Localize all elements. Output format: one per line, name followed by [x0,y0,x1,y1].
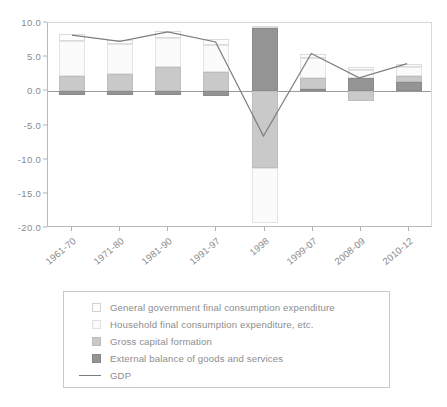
y-axis-tick-label: -10.0 [0,153,41,164]
legend-swatch-household [92,320,101,329]
y-axis-tick-mark [43,90,47,91]
x-axis-tick-label: 1991-97 [182,235,223,272]
y-axis-tick-label: -20.0 [0,222,41,233]
x-axis-tick-label: 2010-12 [374,235,415,272]
chart-figure: 10.05.00.0-5.0-10.0-15.0-20.0 1961-70197… [0,0,447,407]
x-axis-tick-label: 1961-70 [37,235,78,272]
chart-legend: General government final consumption exp… [63,291,390,388]
x-axis-tick-mark [264,227,265,231]
legend-label-gdp: GDP [110,370,131,381]
y-axis-tick-mark [43,158,47,159]
y-axis-tick-mark [43,22,47,23]
y-axis-tick-mark [43,56,47,57]
legend-label-general-government: General government final consumption exp… [110,302,335,313]
plot-area [47,22,432,227]
x-axis-tick-mark [360,227,361,231]
y-axis-tick-label: -5.0 [0,119,41,130]
legend-swatch-gross-capital [92,337,101,346]
y-axis-tick-label: 0.0 [0,85,41,96]
y-axis-tick-mark [43,227,47,228]
legend-swatch-external-balance [92,354,101,363]
y-axis-tick-label: -15.0 [0,187,41,198]
x-axis-tick-mark [408,227,409,231]
legend-label-external-balance: External balance of goods and services [110,353,283,364]
legend-item-general-government: General government final consumption exp… [64,299,389,316]
x-axis-tick-label: 1971-80 [85,235,126,272]
legend-label-household: Household final consumption expenditure,… [110,319,314,330]
x-axis-tick-label: 1998 [230,235,271,272]
y-axis-tick-label: 5.0 [0,51,41,62]
y-axis-tick-label: 10.0 [0,17,41,28]
legend-item-household: Household final consumption expenditure,… [64,316,389,333]
legend-item-external-balance: External balance of goods and services [64,350,389,367]
x-axis-tick-mark [71,227,72,231]
x-axis-tick-mark [312,227,313,231]
gdp-line-series [48,23,431,226]
legend-line-gdp [79,375,101,376]
x-axis-tick-mark [167,227,168,231]
y-axis-tick-mark [43,192,47,193]
legend-item-gdp: GDP [64,367,389,384]
y-axis-tick-mark [43,124,47,125]
legend-swatch-general-government [92,303,101,312]
legend-label-gross-capital: Gross capital formation [110,336,212,347]
x-axis-tick-mark [215,227,216,231]
legend-item-gross-capital: Gross capital formation [64,333,389,350]
x-axis-tick-label: 1981-90 [134,235,175,272]
x-axis-tick-mark [119,227,120,231]
x-axis-tick-label: 2008-09 [326,235,367,272]
x-axis-tick-label: 1999-07 [278,235,319,272]
